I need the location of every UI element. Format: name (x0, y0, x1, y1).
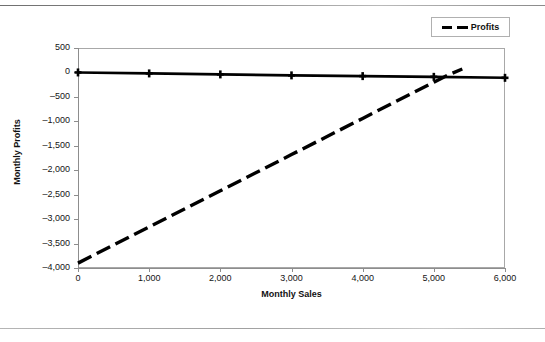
x-tick (220, 268, 221, 272)
y-tick-label: –2,500 (0, 190, 70, 199)
y-tick (74, 219, 79, 220)
x-tick-label: 3,000 (262, 274, 322, 283)
x-tick-label: 0 (48, 274, 108, 283)
x-tick (363, 268, 364, 272)
y-tick (74, 146, 79, 147)
chart-legend: Profits (431, 17, 510, 37)
dashed-line-swatch-icon (442, 23, 468, 31)
y-axis-title: Monthly Profits (12, 102, 22, 202)
x-tick (149, 268, 150, 272)
y-tick-label: –1,000 (0, 116, 70, 125)
x-tick-label: 2,000 (190, 274, 250, 283)
y-tick (74, 170, 79, 171)
y-tick-label: –1,500 (0, 141, 70, 150)
plot-area (78, 48, 505, 268)
y-tick (74, 48, 79, 49)
x-tick (434, 268, 435, 272)
x-tick-label: 5,000 (404, 274, 464, 283)
y-tick (74, 97, 79, 98)
chart-figure: Profits 5000–500–1,000–1,500–2,000–2,500… (0, 0, 545, 342)
x-tick (78, 268, 79, 272)
x-tick-label: 6,000 (475, 274, 535, 283)
legend-entry-profits: Profits (442, 23, 500, 32)
y-tick-label: –4,000 (0, 263, 70, 272)
y-tick-label: –500 (0, 92, 70, 101)
legend-label-profits: Profits (471, 23, 500, 32)
y-axis-line (78, 48, 79, 269)
x-axis-title: Monthly Sales (78, 289, 505, 299)
y-tick-label: –3,000 (0, 214, 70, 223)
y-tick (74, 72, 79, 73)
y-tick (74, 121, 79, 122)
x-tick (292, 268, 293, 272)
x-tick (505, 268, 506, 272)
y-tick-label: 500 (0, 43, 70, 52)
y-tick-label: –2,000 (0, 165, 70, 174)
y-tick (74, 244, 79, 245)
y-tick-label: 0 (0, 67, 70, 76)
x-tick-label: 1,000 (119, 274, 179, 283)
x-tick-label: 4,000 (333, 274, 393, 283)
y-tick (74, 195, 79, 196)
y-tick-label: –3,500 (0, 239, 70, 248)
